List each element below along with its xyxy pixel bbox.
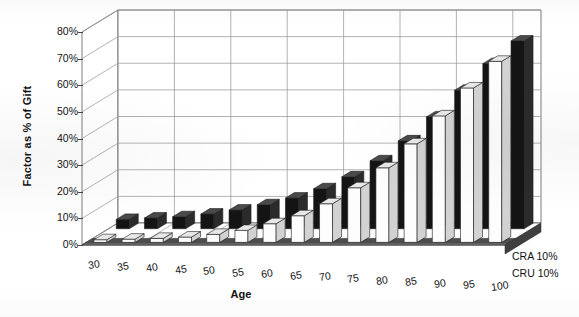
bar-front-face bbox=[432, 116, 445, 242]
bar-front-face bbox=[116, 219, 129, 228]
bar-cru-65 bbox=[291, 210, 313, 242]
y-tick-mark bbox=[78, 192, 83, 193]
bar-front-face bbox=[207, 234, 220, 242]
bar-cru-95 bbox=[461, 82, 483, 242]
x-tick-label: 30 bbox=[87, 257, 100, 271]
bar-cru-90 bbox=[432, 110, 454, 242]
bar-side-face bbox=[502, 56, 511, 243]
bar-front-face bbox=[291, 216, 304, 243]
bar-front-face bbox=[404, 144, 417, 243]
chart-figure: Factor as % of Gift 0%10%20%30%40%50%60%… bbox=[0, 0, 579, 317]
y-tick-mark bbox=[78, 245, 83, 246]
y-tick-mark bbox=[78, 112, 83, 113]
x-tick-label: 75 bbox=[346, 271, 359, 285]
x-tick-label: 95 bbox=[462, 277, 475, 291]
bar-front-face bbox=[489, 61, 502, 242]
bar-cru-70 bbox=[320, 198, 342, 242]
bar-side-face bbox=[417, 138, 426, 242]
bar-cru-60 bbox=[263, 218, 285, 242]
x-tick-label: 90 bbox=[433, 276, 446, 290]
bar-side-face bbox=[389, 162, 398, 242]
bar-cru-100 bbox=[489, 56, 511, 243]
floor-front-lip bbox=[82, 243, 509, 245]
bar-cru-75 bbox=[348, 182, 370, 242]
y-tick-mark bbox=[78, 59, 83, 60]
x-tick-label: 100 bbox=[490, 278, 509, 293]
x-tick-label: 85 bbox=[404, 274, 417, 288]
x-tick-label: 65 bbox=[289, 268, 302, 282]
x-tick-label: 55 bbox=[231, 265, 244, 279]
bar-front-face bbox=[229, 210, 242, 229]
bar-front-face bbox=[122, 239, 135, 242]
x-axis-title: Age bbox=[196, 288, 286, 300]
bar-cra-100 bbox=[511, 36, 533, 229]
bar-side-face bbox=[524, 36, 533, 229]
bar-side-face bbox=[474, 82, 483, 242]
bar-front-face bbox=[179, 237, 192, 242]
x-tick-label: 60 bbox=[260, 267, 273, 281]
y-tick-mark bbox=[78, 32, 83, 33]
bar-side-face bbox=[361, 182, 370, 242]
x-tick-label: 45 bbox=[174, 262, 187, 276]
bar-cru-80 bbox=[376, 162, 398, 242]
bar-front-face bbox=[94, 240, 107, 243]
bar-front-face bbox=[263, 224, 276, 243]
series-label-cru: CRU 10% bbox=[512, 267, 559, 279]
y-tick-mark bbox=[78, 218, 83, 219]
bar-front-face bbox=[173, 217, 186, 229]
x-tick-label: 35 bbox=[116, 259, 129, 273]
bar-front-face bbox=[150, 238, 163, 242]
bar-front-face bbox=[201, 214, 214, 229]
y-tick-mark bbox=[78, 139, 83, 140]
bar-front-face bbox=[235, 230, 248, 242]
x-tick-label: 40 bbox=[145, 260, 158, 274]
x-tick-label: 80 bbox=[375, 273, 388, 287]
bar-front-face bbox=[376, 168, 389, 243]
bar-side-face bbox=[445, 110, 454, 242]
bar-front-face bbox=[348, 188, 361, 243]
x-tick-label: 70 bbox=[318, 270, 331, 284]
bar-side-face bbox=[333, 198, 342, 242]
y-tick-mark bbox=[78, 85, 83, 86]
bar-front-face bbox=[320, 204, 333, 243]
x-tick-label: 50 bbox=[202, 263, 215, 277]
series-label-cra: CRA 10% bbox=[512, 250, 558, 262]
bar-cru-85 bbox=[404, 138, 426, 242]
y-tick-mark bbox=[78, 165, 83, 166]
bar-front-face bbox=[144, 218, 157, 229]
bar-front-face bbox=[511, 41, 524, 229]
bar-front-face bbox=[461, 88, 474, 242]
